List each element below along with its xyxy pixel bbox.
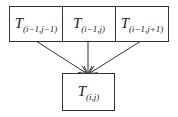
arrow-left (36, 41, 86, 73)
cell-bottom: T(i,j) (62, 73, 115, 111)
cell-top-center: T(i−1,j) (62, 6, 116, 42)
cell-top-left: T(i−1,j−1) (9, 6, 63, 42)
cell-top-right: T(i−1,j+1) (115, 6, 169, 42)
cell-label: T(i,j) (78, 83, 100, 102)
cell-label: T(i−1,j−1) (15, 15, 58, 34)
cell-label: T(i−1,j+1) (121, 15, 164, 34)
cell-label: T(i−1,j) (73, 15, 105, 34)
arrow-right (90, 41, 141, 73)
